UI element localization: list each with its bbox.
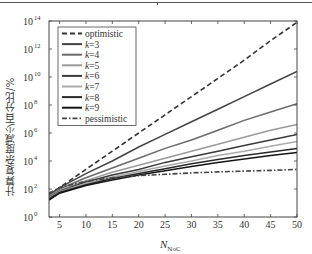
legend-label: k=6 xyxy=(85,71,100,81)
legend-label: k=5 xyxy=(85,61,100,71)
legend-label: k=8 xyxy=(85,93,100,103)
x-tick-label: 25 xyxy=(160,219,170,230)
x-tick-label: 40 xyxy=(239,219,249,230)
legend-label: k=4 xyxy=(85,50,100,60)
series-line-k9 xyxy=(49,153,297,201)
x-axis-label-sub: NoC xyxy=(167,245,180,253)
x-axis-label: NNoC xyxy=(160,238,181,253)
x-tick-label: 50 xyxy=(292,219,302,230)
x-tick-label: 20 xyxy=(134,219,144,230)
y-tick-exponent: 4 xyxy=(34,154,38,161)
y-tick-exponent: 8 xyxy=(34,98,37,105)
y-tick-label: 10 xyxy=(23,156,33,167)
y-axis-label: 计算复杂度减少百分比/% xyxy=(3,72,17,202)
legend-label: k=7 xyxy=(85,82,100,92)
y-tick-label: 10 xyxy=(23,100,33,111)
y-tick-exponent: 2 xyxy=(34,182,37,189)
y-tick-exponent: 6 xyxy=(34,126,38,133)
y-tick-exponent: 10 xyxy=(34,70,41,77)
y-tick-label: 10 xyxy=(23,184,33,195)
legend-label: k=3 xyxy=(85,40,100,50)
y-tick-label: 10 xyxy=(23,128,33,139)
y-tick-label: 10 xyxy=(23,16,33,27)
legend-label: k=9 xyxy=(85,103,100,113)
y-tick-exponent: 14 xyxy=(34,14,41,21)
x-tick-label: 30 xyxy=(186,219,196,230)
legend-label: pessimistic xyxy=(85,114,127,124)
x-tick-label: 10 xyxy=(81,219,91,230)
y-tick-label: 10 xyxy=(23,212,33,223)
x-tick-label: 35 xyxy=(213,219,223,230)
x-tick-label: 15 xyxy=(107,219,117,230)
y-tick-label: 10 xyxy=(23,44,33,55)
chart-plot: 5101520253035404550100102104106108101010… xyxy=(0,0,312,254)
x-tick-label: 45 xyxy=(266,219,276,230)
series-line-k6 xyxy=(49,134,297,197)
legend-label: optimistic xyxy=(85,29,123,39)
y-tick-exponent: 12 xyxy=(34,42,41,49)
x-tick-label: 5 xyxy=(57,219,62,230)
y-tick-exponent: 0 xyxy=(34,210,37,217)
y-tick-label: 10 xyxy=(23,72,33,83)
